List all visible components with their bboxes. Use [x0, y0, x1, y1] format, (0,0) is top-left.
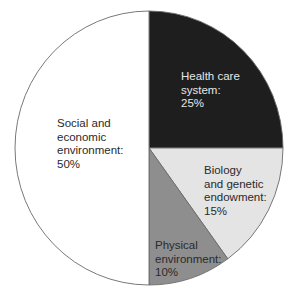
pie-chart — [0, 0, 290, 294]
slice-label-physical-environment: Physical environment: 10% — [155, 239, 221, 280]
slice-label-biology: Biology and genetic endowment: 15% — [204, 164, 267, 218]
slice-label-social-economic: Social and economic environment: 50% — [57, 117, 123, 171]
slice-label-health-care: Health care system: 25% — [181, 70, 240, 111]
